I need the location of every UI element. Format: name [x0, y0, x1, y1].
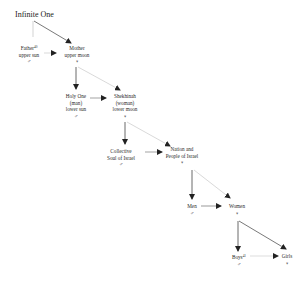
node-holy-one: Holy One (man) lower sun ♂: [66, 93, 86, 119]
node-father-label: Father: [21, 45, 34, 51]
node-women: Women ♀: [229, 203, 245, 216]
female-symbol-icon: ♀: [229, 210, 245, 216]
node-girls: Girls ♀: [282, 253, 292, 266]
diagram-links: [0, 0, 308, 281]
node-men: Men ♂: [187, 203, 197, 216]
male-symbol-icon: ♂: [66, 113, 86, 119]
node-shekhinah-sub1: (woman): [113, 100, 138, 107]
edge-infinite-mother: [34, 21, 71, 43]
node-men-label: Men: [187, 203, 197, 210]
male-symbol-icon: ♂: [19, 58, 39, 64]
edge-shekhinah-nation: [127, 122, 170, 146]
node-collective-soul-label: Collective: [107, 148, 135, 155]
node-mother-label: Mother: [65, 45, 90, 52]
node-infinite-one: Infinite One: [15, 10, 54, 19]
male-symbol-icon: ♂: [187, 210, 197, 216]
node-father-sub: upper sun: [19, 52, 39, 59]
edge-women-girls: [239, 221, 286, 249]
node-nation: Nation and People of Israel ♀: [166, 146, 199, 165]
edge-nation-women: [194, 170, 230, 198]
node-holy-one-sub1: (man): [66, 100, 86, 107]
node-collective-soul: Collective Soul of Israel ♂: [107, 148, 135, 167]
male-symbol-icon: ♂: [232, 261, 246, 267]
female-symbol-icon: ♀: [113, 113, 138, 119]
node-nation-label: Nation and: [166, 146, 199, 153]
node-father: Father40 upper sun ♂: [19, 45, 39, 64]
edge-mother-shekhinah: [78, 67, 120, 90]
female-symbol-icon: ♀: [282, 260, 292, 266]
node-girls-label: Girls: [282, 253, 292, 260]
node-shekhinah: Shekhinah (woman) lower moon ♀: [113, 93, 138, 119]
male-symbol-icon: ♂: [107, 161, 135, 167]
node-shekhinah-sub2: lower moon: [113, 106, 138, 113]
node-nation-sub: People of Israel: [166, 153, 199, 160]
footnote-marker: 41: [243, 254, 246, 258]
node-women-label: Women: [229, 203, 245, 210]
female-symbol-icon: ♀: [166, 159, 199, 165]
node-collective-soul-sub: Soul of Israel: [107, 155, 135, 162]
node-holy-one-label: Holy One: [66, 93, 86, 100]
node-shekhinah-label: Shekhinah: [113, 93, 138, 100]
node-boys: Boys41 ♂: [232, 254, 246, 267]
node-boys-label: Boys: [232, 254, 243, 260]
node-mother-sub: upper moon: [65, 52, 90, 59]
node-mother: Mother upper moon ♀: [65, 45, 90, 64]
node-holy-one-sub2: lower sun: [66, 106, 86, 113]
female-symbol-icon: ♀: [65, 58, 90, 64]
footnote-marker: 40: [34, 45, 37, 49]
